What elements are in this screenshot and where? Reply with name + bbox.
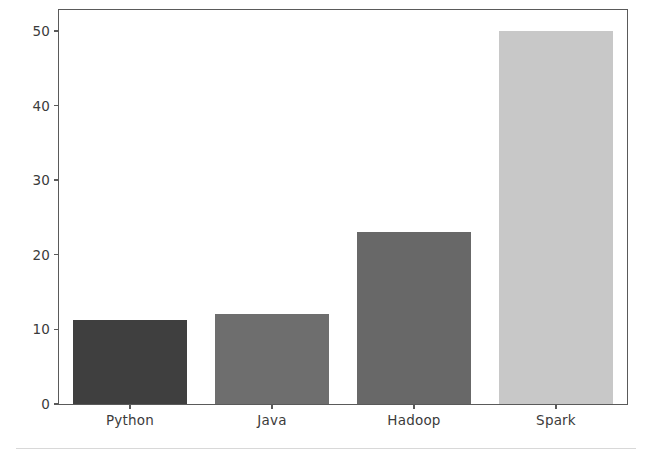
bar-hadoop[interactable] [357,232,471,404]
figure-canvas: 0 10 20 30 40 50 [0,0,652,455]
x-tick-label: Java [257,412,286,428]
x-tick-label: Python [106,412,154,428]
y-tick-label: 0 [41,396,50,412]
y-tick-label: 30 [32,172,50,188]
y-tick-label: 50 [32,23,50,39]
bar-java[interactable] [215,314,329,404]
x-tick-mark [129,404,130,409]
bars-layer [59,10,627,404]
x-tick-label: Spark [536,412,576,428]
x-tick-label: Hadoop [387,412,440,428]
bar-python[interactable] [73,320,187,404]
y-tick-label: 40 [32,98,50,114]
bar-spark[interactable] [499,31,613,404]
x-tick-mark [555,404,556,409]
y-tick-label: 10 [32,321,50,337]
x-tick-mark [413,404,414,409]
x-tick-mark [271,404,272,409]
chart-plot-area: 0 10 20 30 40 50 [58,9,628,405]
footer-divider [16,448,636,449]
y-tick-label: 20 [32,247,50,263]
